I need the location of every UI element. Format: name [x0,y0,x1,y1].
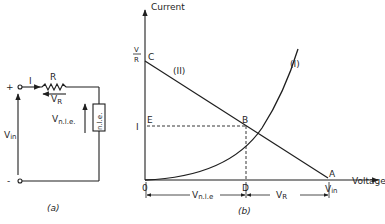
curve-i [145,49,298,180]
curve-ii-label: (II) [173,66,185,76]
plus-label: + [6,82,14,92]
origin-label: 0 [142,183,148,193]
vnle-dim-label: Vn.l.e [192,190,213,201]
point-b-label: B [242,115,248,125]
nle-element-label: n.l.e. [96,113,104,130]
current-tick-label: I [136,122,139,132]
curve-i-label: (I) [290,59,300,69]
y-axis-label: Current [151,2,185,12]
y-intercept-den: R [134,56,139,64]
minus-terminal [18,179,22,183]
caption-b: (b) [238,206,251,216]
point-c-label: C [148,52,154,62]
y-intercept-num: V [134,46,139,54]
vnle-label: Vn.l.e. [52,114,76,126]
load-line-ii [145,61,328,178]
diagram-canvas: + - I R VR Vin Vn.l.e. n.l.e. (a) Curren… [0,0,385,224]
vr-dim-label: VR [276,190,287,201]
current-label: I [29,76,32,86]
figure: + - I R VR Vin Vn.l.e. n.l.e. (a) Curren… [0,0,385,224]
plus-terminal [18,85,22,89]
resistor [42,84,66,90]
vin-axis-label: Vin [325,184,338,195]
caption-a: (a) [47,203,60,213]
minus-label: - [7,176,10,186]
vr-label: VR [51,94,62,106]
point-a-label: A [329,169,336,179]
vin-label: Vin [4,130,17,141]
point-d-label: D [242,183,249,193]
x-axis-label: Voltage [352,176,385,186]
point-e-label: E [147,115,153,125]
graph [145,10,378,198]
resistor-label: R [50,72,56,82]
